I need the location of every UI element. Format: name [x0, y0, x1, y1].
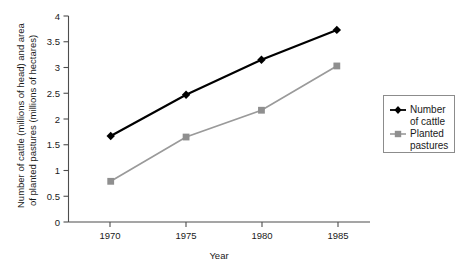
x-tick-label-3: 1985 [327, 230, 348, 241]
x-tick-label-2: 1980 [251, 230, 272, 241]
legend-label-pastures-line2: pastures [410, 140, 448, 151]
y-axis-tick-labels: 4 3.5 3 2.5 2 1.5 1 0.5 0 [47, 11, 60, 228]
data-point-diamond [182, 91, 190, 99]
series-line [111, 66, 337, 181]
plot-series-layer [107, 26, 342, 185]
y-tick-label-2: 1 [55, 165, 60, 176]
data-point-square [183, 134, 190, 141]
y-tick-label-7: 3.5 [47, 36, 60, 47]
data-point-square [258, 107, 265, 114]
legend: Number of cattle Planted pastures [384, 96, 455, 153]
series-pastures [107, 63, 340, 185]
y-axis-title-line2: of planted pastures (millions of hectare… [27, 35, 38, 206]
data-point-diamond [257, 56, 265, 64]
data-point-diamond [107, 132, 115, 140]
y-tick-label-1: 0.5 [47, 191, 60, 202]
data-point-square [333, 63, 340, 70]
y-tick-label-6: 3 [55, 62, 60, 73]
chart-figure: Number of cattle (millions of head) and … [0, 0, 464, 278]
series-line [111, 30, 337, 136]
y-tick-label-5: 2.5 [47, 88, 60, 99]
x-axis-title: Year [209, 250, 228, 261]
y-tick-label-0: 0 [55, 217, 60, 228]
y-tick-label-4: 2 [55, 114, 60, 125]
line-chart: Number of cattle (millions of head) and … [0, 0, 464, 278]
y-axis-title: Number of cattle (millions of head) and … [15, 22, 38, 208]
y-tick-label-3: 1.5 [47, 139, 60, 150]
legend-label-pastures-line1: Planted [410, 128, 444, 139]
x-axis-ticks [110, 222, 338, 227]
data-point-square [107, 178, 114, 185]
y-axis-title-line1: Number of cattle (millions of head) and … [15, 22, 26, 208]
legend-label-cattle-line2: of cattle [410, 116, 445, 127]
x-tick-label-1: 1975 [175, 230, 196, 241]
y-axis-ticks [64, 16, 69, 222]
square-marker-icon [395, 131, 401, 137]
data-point-diamond [333, 26, 341, 34]
x-axis-tick-labels: 1970 1975 1980 1985 [99, 230, 348, 241]
y-tick-label-8: 4 [55, 11, 60, 22]
legend-label-cattle-line1: Number [410, 104, 446, 115]
x-tick-label-0: 1970 [99, 230, 120, 241]
